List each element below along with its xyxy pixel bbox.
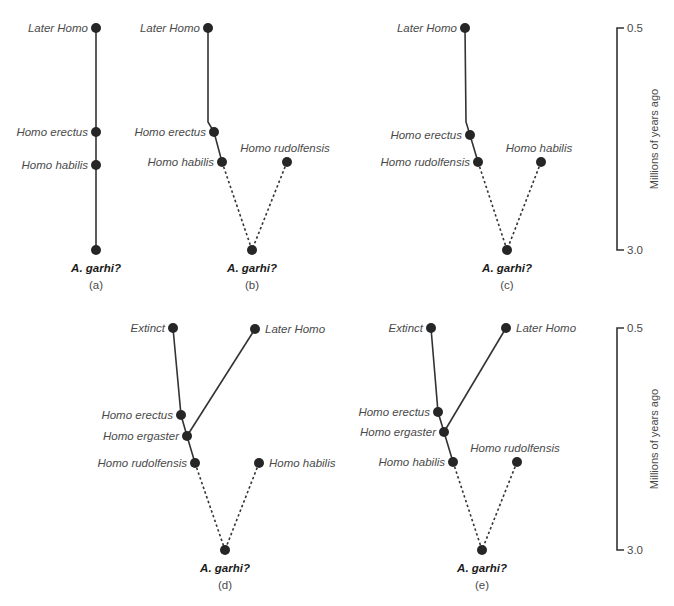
node-dot bbox=[176, 410, 186, 420]
panels-layer: Later HomoHomo erectusHomo habilisA. gar… bbox=[16, 22, 576, 591]
panel-d: ExtinctLater HomoHomo erectusHomo ergast… bbox=[98, 322, 336, 591]
node-dot bbox=[91, 23, 101, 33]
root-label: A. garhi? bbox=[70, 262, 121, 274]
taxon-label: Later Homo bbox=[140, 22, 201, 34]
panel-caption: (d) bbox=[218, 579, 232, 591]
node-dot bbox=[220, 545, 230, 555]
dashed-branch bbox=[507, 162, 541, 250]
node-dot bbox=[190, 458, 200, 468]
node-dot bbox=[247, 245, 257, 255]
scale-top-tick: 0.5 bbox=[627, 322, 643, 334]
taxon-label: Homo ergaster bbox=[103, 430, 180, 442]
dashed-branch bbox=[195, 463, 225, 550]
node-dot bbox=[426, 323, 436, 333]
panel-caption: (a) bbox=[89, 279, 103, 291]
node-dot bbox=[536, 157, 546, 167]
taxon-label: Homo rudolfensis bbox=[381, 156, 471, 168]
dashed-branch bbox=[252, 162, 287, 250]
root-label: A. garhi? bbox=[456, 562, 507, 574]
scale-bottom-tick: 3.0 bbox=[627, 544, 643, 556]
panel-caption: (c) bbox=[500, 279, 514, 291]
root-label: A. garhi? bbox=[226, 262, 277, 274]
dashed-branch bbox=[478, 162, 507, 250]
panel-caption: (e) bbox=[475, 579, 489, 591]
node-dot bbox=[501, 323, 511, 333]
taxon-label: Homo rudolfensis bbox=[240, 142, 330, 154]
panel-a: Later HomoHomo erectusHomo habilisA. gar… bbox=[16, 22, 121, 291]
solid-branch bbox=[173, 328, 195, 463]
taxon-label: Homo habilis bbox=[22, 159, 89, 171]
taxon-label: Homo habilis bbox=[379, 456, 446, 468]
node-dot bbox=[250, 324, 260, 334]
dashed-branch bbox=[482, 462, 517, 550]
node-dot bbox=[282, 157, 292, 167]
solid-branch bbox=[431, 328, 453, 462]
dashed-branch bbox=[453, 462, 482, 550]
taxon-label: Homo erectus bbox=[134, 126, 206, 138]
root-label: A. garhi? bbox=[199, 562, 250, 574]
taxon-label: Homo rudolfensis bbox=[98, 457, 188, 469]
panel-caption: (b) bbox=[245, 279, 259, 291]
scale-top-tick: 0.5 bbox=[627, 22, 643, 34]
dashed-branch bbox=[222, 162, 252, 250]
node-dot bbox=[460, 23, 470, 33]
node-dot bbox=[91, 245, 101, 255]
taxon-label: Homo erectus bbox=[358, 406, 430, 418]
scale-axis-label: Millions of years ago bbox=[648, 389, 660, 489]
taxon-label: Homo rudolfensis bbox=[470, 442, 560, 454]
node-dot bbox=[448, 457, 458, 467]
node-dot bbox=[203, 23, 213, 33]
node-dot bbox=[439, 427, 449, 437]
scale-bracket bbox=[617, 328, 624, 550]
node-dot bbox=[168, 323, 178, 333]
panel-b: Later HomoHomo erectusHomo habilisHomo r… bbox=[134, 22, 330, 291]
panel-c: Later HomoHomo erectusHomo rudolfensisHo… bbox=[381, 22, 573, 291]
node-dot bbox=[91, 127, 101, 137]
taxon-label: Homo erectus bbox=[16, 126, 88, 138]
solid-branch bbox=[208, 28, 222, 162]
panel-e: ExtinctLater HomoHomo erectusHomo ergast… bbox=[358, 322, 576, 591]
node-dot bbox=[512, 457, 522, 467]
node-dot bbox=[433, 407, 443, 417]
time-scale-bar: 0.53.0Millions of years ago bbox=[617, 22, 660, 256]
phylogeny-diagram: Later HomoHomo erectusHomo habilisA. gar… bbox=[0, 0, 674, 606]
solid-branch bbox=[465, 28, 478, 162]
taxon-label: Homo habilis bbox=[269, 457, 336, 469]
taxon-label: Later Homo bbox=[516, 322, 577, 334]
node-dot bbox=[254, 458, 264, 468]
taxon-label: Homo ergaster bbox=[360, 426, 437, 438]
scale-axis-label: Millions of years ago bbox=[648, 89, 660, 189]
root-label: A. garhi? bbox=[481, 262, 532, 274]
scale-bracket bbox=[617, 28, 624, 250]
node-dot bbox=[477, 545, 487, 555]
scale-bottom-tick: 3.0 bbox=[627, 244, 643, 256]
node-dot bbox=[182, 431, 192, 441]
time-scale-bar: 0.53.0Millions of years ago bbox=[617, 322, 660, 556]
taxon-label: Homo habilis bbox=[148, 156, 215, 168]
dashed-branch bbox=[225, 463, 259, 550]
scales-layer: 0.53.0Millions of years ago0.53.0Million… bbox=[617, 22, 660, 556]
node-dot bbox=[502, 245, 512, 255]
node-dot bbox=[91, 160, 101, 170]
node-dot bbox=[209, 127, 219, 137]
taxon-label: Homo erectus bbox=[390, 129, 462, 141]
taxon-label: Homo erectus bbox=[101, 409, 173, 421]
taxon-label: Later Homo bbox=[397, 22, 458, 34]
taxon-label: Homo habilis bbox=[506, 142, 573, 154]
taxon-label: Extinct bbox=[130, 322, 165, 334]
node-dot bbox=[217, 157, 227, 167]
node-dot bbox=[473, 157, 483, 167]
node-dot bbox=[465, 130, 475, 140]
taxon-label: Extinct bbox=[388, 322, 423, 334]
taxon-label: Later Homo bbox=[28, 22, 89, 34]
solid-branch bbox=[187, 329, 255, 436]
solid-branch bbox=[444, 328, 506, 432]
taxon-label: Later Homo bbox=[265, 323, 326, 335]
